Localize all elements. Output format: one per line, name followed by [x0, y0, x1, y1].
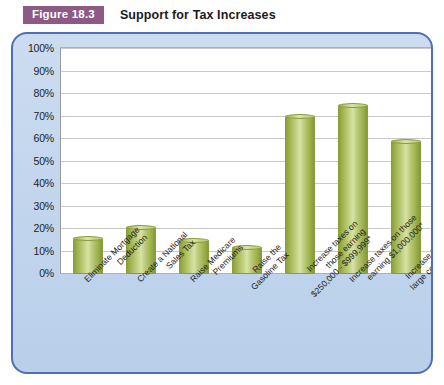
- y-axis-labels: 100%90%80%70%60%50%40%30%20%10%0%: [13, 47, 57, 274]
- y-axis-tick-label: 30%: [34, 200, 54, 212]
- figure-header: Figure 18.3 Support for Tax Increases: [0, 0, 444, 30]
- y-axis-tick-label: 100%: [28, 42, 54, 54]
- x-axis-labels: Eliminate MortgageDeductionCreate a Nati…: [61, 277, 433, 372]
- y-axis-tick-label: 40%: [34, 177, 54, 189]
- bar-top-cap: [73, 236, 103, 241]
- y-axis-tick-label: 10%: [34, 245, 54, 257]
- y-axis-tick-label: 70%: [34, 110, 54, 122]
- chart-panel: 100%90%80%70%60%50%40%30%20%10%0% Elimin…: [11, 32, 433, 374]
- y-axis-tick-label: 0%: [39, 267, 54, 279]
- bar-top-cap: [391, 139, 421, 144]
- bar-top-cap: [285, 114, 315, 119]
- bar: [285, 116, 315, 274]
- y-axis-tick-label: 60%: [34, 132, 54, 144]
- figure-number-badge: Figure 18.3: [23, 6, 104, 25]
- page-title: Support for Tax Increases: [120, 8, 276, 22]
- bar-series: [61, 48, 433, 274]
- y-axis-tick-label: 90%: [34, 65, 54, 77]
- y-axis-tick-label: 80%: [34, 87, 54, 99]
- bar-top-cap: [338, 103, 368, 108]
- y-axis-tick-label: 50%: [34, 155, 54, 167]
- y-axis-tick-label: 20%: [34, 222, 54, 234]
